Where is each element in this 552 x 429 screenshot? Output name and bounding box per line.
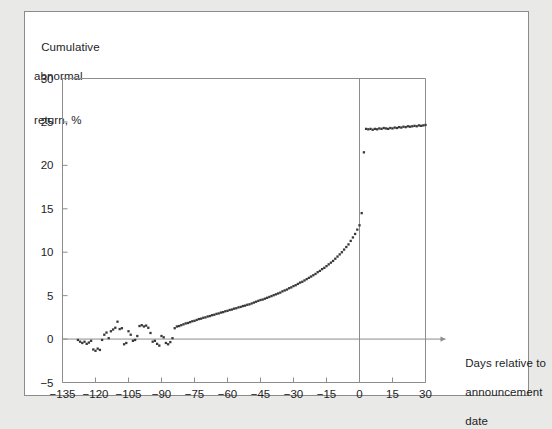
data-point: [233, 308, 235, 310]
y-axis-tick-label: 0: [47, 333, 53, 345]
data-point: [308, 277, 310, 279]
data-point: [323, 267, 325, 269]
data-point: [198, 318, 200, 320]
data-point: [409, 126, 411, 128]
data-point: [266, 297, 268, 299]
data-point: [147, 327, 149, 329]
data-point: [92, 348, 94, 350]
data-point: [383, 127, 385, 129]
data-point: [325, 265, 327, 267]
data-series-cumulative-abnormal-return: [77, 124, 427, 352]
data-point: [242, 305, 244, 307]
data-point: [88, 341, 90, 343]
data-point: [246, 304, 248, 306]
data-point: [350, 240, 352, 242]
data-point: [275, 293, 277, 295]
data-point: [231, 308, 233, 310]
data-point: [165, 342, 167, 344]
data-point: [209, 315, 211, 317]
data-point: [229, 309, 231, 311]
data-point: [402, 126, 404, 128]
data-point: [389, 127, 391, 129]
data-point: [281, 290, 283, 292]
data-point: [224, 310, 226, 312]
data-point: [152, 341, 154, 343]
y-axis-tick-label: 25: [41, 116, 54, 128]
data-point: [97, 347, 99, 349]
data-point: [255, 301, 257, 303]
x-axis-tick-label: −75: [185, 388, 205, 400]
data-point: [240, 306, 242, 308]
x-axis-tick-label: 30: [419, 388, 432, 400]
data-point: [160, 335, 162, 337]
data-point: [90, 340, 92, 342]
data-point: [163, 336, 165, 338]
y-axis-tick-label: 10: [41, 246, 54, 258]
data-point: [341, 251, 343, 253]
data-point: [211, 314, 213, 316]
data-point: [130, 334, 132, 336]
data-point: [400, 126, 402, 128]
data-point: [180, 324, 182, 326]
data-point: [110, 330, 112, 332]
data-point: [226, 310, 228, 312]
x-axis-arrow-icon: [441, 336, 446, 341]
data-point: [114, 327, 116, 329]
data-point: [356, 228, 358, 230]
data-point: [189, 321, 191, 323]
data-point: [352, 236, 354, 238]
x-axis-tick-label: −30: [284, 388, 304, 400]
data-point: [244, 304, 246, 306]
data-point: [141, 324, 143, 326]
data-point: [185, 322, 187, 324]
data-point: [288, 287, 290, 289]
data-point: [365, 128, 367, 130]
data-point: [321, 268, 323, 270]
data-point: [149, 332, 151, 334]
data-point: [262, 298, 264, 300]
data-point: [237, 306, 239, 308]
data-point: [108, 337, 110, 339]
data-point: [332, 260, 334, 262]
y-axis-tick-label: 20: [41, 159, 54, 171]
data-point: [284, 289, 286, 291]
data-point: [138, 325, 140, 327]
data-point: [279, 291, 281, 293]
data-point: [413, 125, 415, 127]
data-point: [380, 128, 382, 130]
data-point: [396, 127, 398, 129]
x-axis-tick-label: −105: [116, 388, 142, 400]
data-point: [270, 295, 272, 297]
data-point: [391, 127, 393, 129]
data-point: [398, 126, 400, 128]
data-point: [295, 284, 297, 286]
data-point: [134, 339, 136, 341]
data-point: [301, 281, 303, 283]
data-point: [420, 125, 422, 127]
data-point: [176, 325, 178, 327]
data-point: [273, 294, 275, 296]
data-point: [86, 343, 88, 345]
data-point: [193, 320, 195, 322]
data-point: [306, 278, 308, 280]
data-point: [416, 125, 418, 127]
data-point: [207, 315, 209, 317]
data-point: [253, 301, 255, 303]
data-point: [336, 255, 338, 257]
data-point: [394, 126, 396, 128]
data-point: [343, 248, 345, 250]
x-axis-tick-label: −60: [218, 388, 238, 400]
data-point: [123, 343, 125, 345]
data-point: [339, 253, 341, 255]
data-point: [105, 331, 107, 333]
data-point: [191, 320, 193, 322]
data-point: [167, 343, 169, 345]
data-point: [411, 125, 413, 127]
data-point: [303, 279, 305, 281]
data-point: [112, 328, 114, 330]
data-point: [277, 292, 279, 294]
data-point: [187, 322, 189, 324]
data-point: [418, 124, 420, 126]
y-axis-tick-label: 30: [41, 73, 54, 85]
